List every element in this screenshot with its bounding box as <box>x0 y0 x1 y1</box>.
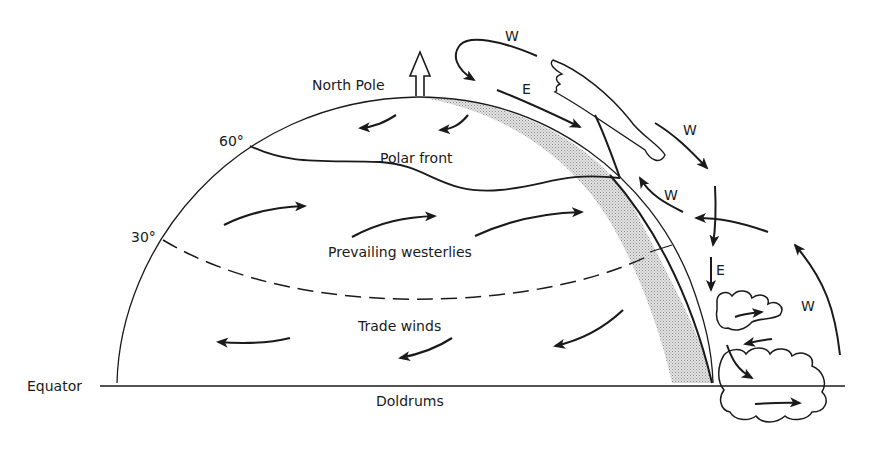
doldrums-label: Doldrums <box>376 393 444 409</box>
westerly-arrow-icon <box>475 212 582 236</box>
atmosphere-band <box>418 97 712 383</box>
upper-west-right-arrow-icon <box>655 123 707 168</box>
cumulus-cloud-lower <box>719 348 826 422</box>
polar-easterly-arrow-icon <box>440 115 468 130</box>
westerly-arrow-icon <box>352 216 435 237</box>
wind-label-e: E <box>716 262 725 278</box>
westerly-arrow-icon <box>224 206 305 225</box>
trade-wind-arrow-icon <box>555 310 623 346</box>
cloud-outflow-arrow-icon <box>735 312 762 317</box>
latitude-30-label: 30° <box>131 229 156 245</box>
cumulus-cloud-upper <box>717 291 782 330</box>
wind-circulation-diagram: North Pole 60° 30° Equator Polar front P… <box>0 0 871 453</box>
trade-wind-arrow-icon <box>400 338 452 358</box>
wind-label-e: E <box>522 81 531 97</box>
wind-label-w: W <box>505 28 519 44</box>
polar-front-label: Polar front <box>380 150 453 166</box>
convergence-arrow-icon <box>696 218 768 232</box>
vertical-down-arrow-icon <box>713 186 716 245</box>
trade-wind-arrow-icon <box>218 338 290 343</box>
cloud-surface-arrow-icon <box>755 403 800 404</box>
wind-label-w: W <box>664 187 678 203</box>
prevailing-westerlies-label: Prevailing westerlies <box>328 244 472 260</box>
equator-label: Equator <box>27 378 82 394</box>
north-pole-arrow-icon <box>410 52 430 96</box>
cloud-inflow-arrow-icon <box>745 339 772 344</box>
latitude-60-label: 60° <box>219 133 244 149</box>
north-pole-label: North Pole <box>312 77 385 93</box>
trade-winds-label: Trade winds <box>357 318 441 334</box>
polar-easterly-arrow-icon <box>360 115 396 128</box>
upper-west-arrow-icon <box>456 40 537 80</box>
wind-label-w: W <box>683 122 697 138</box>
wind-label-w: W <box>801 298 815 314</box>
